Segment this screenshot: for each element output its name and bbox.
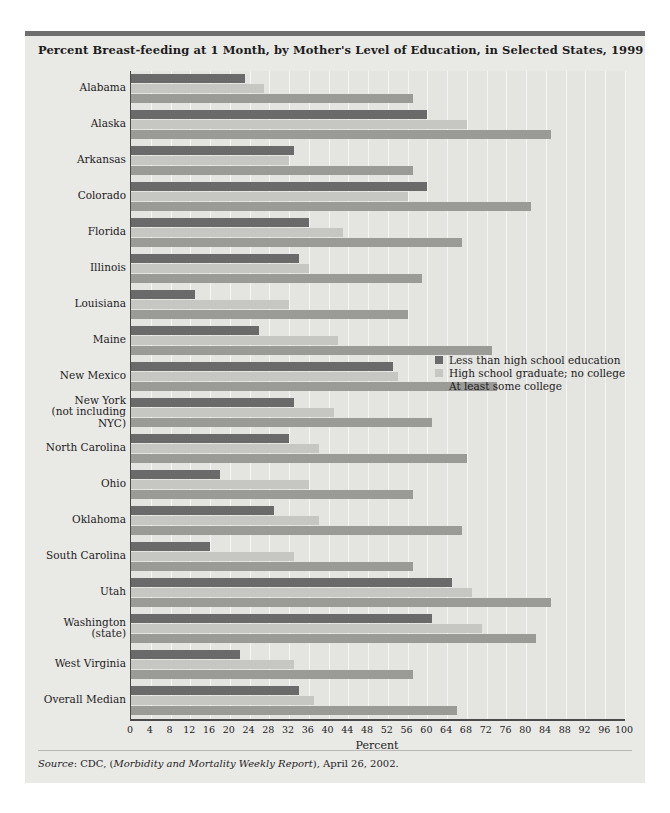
bar — [131, 290, 195, 299]
bar — [131, 218, 309, 227]
source-label: Source — [38, 758, 74, 769]
x-tick-label: 80 — [519, 724, 531, 735]
category-label: Alaska — [24, 118, 126, 130]
bar-group: Washington(state) — [131, 611, 625, 647]
source-note: Source: CDC, (Morbidity and Mortality We… — [38, 758, 399, 769]
bar — [131, 166, 413, 175]
bar — [131, 274, 422, 283]
category-label: Florida — [24, 226, 126, 238]
bar — [131, 706, 457, 715]
x-axis-line — [130, 719, 625, 721]
bar — [131, 238, 462, 247]
x-tick-label: 28 — [262, 724, 274, 735]
legend-swatch-icon — [435, 369, 443, 377]
bar-group: Overall Median — [131, 683, 625, 719]
x-tick-label: 84 — [539, 724, 551, 735]
page-title: Percent Breast-feeding at 1 Month, by Mo… — [38, 43, 643, 57]
bar — [131, 120, 467, 129]
bar — [131, 202, 531, 211]
bar-group: Alaska — [131, 107, 625, 143]
plot-area: AlabamaAlaskaArkansasColoradoFloridaIlli… — [130, 71, 625, 719]
x-tick-label: 40 — [322, 724, 334, 735]
bar — [131, 408, 334, 417]
bar — [131, 542, 210, 551]
category-label: North Carolina — [24, 442, 126, 454]
bar — [131, 686, 299, 695]
bar — [131, 156, 289, 165]
category-label: Oklahoma — [24, 514, 126, 526]
bar — [131, 588, 472, 597]
bar — [131, 182, 427, 191]
category-label: West Virginia — [24, 658, 126, 670]
bar — [131, 130, 551, 139]
bar — [131, 470, 220, 479]
x-tick-label: 32 — [282, 724, 294, 735]
bar-group: Illinois — [131, 251, 625, 287]
bar — [131, 670, 413, 679]
bar — [131, 146, 294, 155]
category-label: Washington(state) — [24, 617, 126, 640]
bar — [131, 254, 299, 263]
bar — [131, 326, 259, 335]
bar — [131, 526, 462, 535]
category-label: Maine — [24, 334, 126, 346]
bar — [131, 434, 289, 443]
category-label: Utah — [24, 586, 126, 598]
x-tick-label: 96 — [598, 724, 610, 735]
legend-item: High school graduate; no college — [435, 366, 625, 379]
legend-item: At least some college — [435, 379, 625, 392]
bar — [131, 264, 309, 273]
bottom-rule — [38, 750, 632, 751]
bar — [131, 480, 309, 489]
bar — [131, 624, 482, 633]
bar-group: Arkansas — [131, 143, 625, 179]
bar-group: South Carolina — [131, 539, 625, 575]
category-label: New Mexico — [24, 370, 126, 382]
bar — [131, 418, 432, 427]
bar-group: Colorado — [131, 179, 625, 215]
x-tick-label: 56 — [401, 724, 413, 735]
x-tick-label: 4 — [147, 724, 153, 735]
category-label: Illinois — [24, 262, 126, 274]
bar — [131, 228, 343, 237]
bar — [131, 454, 467, 463]
bar — [131, 634, 536, 643]
top-rule — [25, 31, 645, 36]
legend-label: At least some college — [449, 380, 562, 392]
bar — [131, 444, 319, 453]
source-sep: : CDC, ( — [74, 758, 114, 769]
bar — [131, 516, 319, 525]
bar-group: Ohio — [131, 467, 625, 503]
gridline — [625, 71, 626, 719]
bar-group: West Virginia — [131, 647, 625, 683]
x-tick-label: 36 — [302, 724, 314, 735]
x-tick-label: 100 — [615, 724, 633, 735]
bar — [131, 506, 274, 515]
x-tick-label: 0 — [127, 724, 133, 735]
bar-group: Oklahoma — [131, 503, 625, 539]
x-tick-label: 64 — [440, 724, 452, 735]
bar-group: Louisiana — [131, 287, 625, 323]
legend-label: High school graduate; no college — [449, 367, 625, 379]
bar — [131, 398, 294, 407]
x-tick-label: 12 — [183, 724, 195, 735]
x-tick-label: 76 — [499, 724, 511, 735]
category-label: Ohio — [24, 478, 126, 490]
x-tick-label: 92 — [578, 724, 590, 735]
bar-group: Utah — [131, 575, 625, 611]
plot-wrapper: AlabamaAlaskaArkansasColoradoFloridaIlli… — [25, 67, 645, 747]
x-tick-label: 88 — [559, 724, 571, 735]
bar — [131, 336, 338, 345]
x-tick-label: 72 — [480, 724, 492, 735]
bar — [131, 490, 413, 499]
category-label: Overall Median — [24, 694, 126, 706]
bar — [131, 614, 432, 623]
bar — [131, 310, 408, 319]
bar — [131, 94, 413, 103]
bar — [131, 552, 294, 561]
chart-legend: Less than high school educationHigh scho… — [435, 353, 625, 392]
x-tick-label: 48 — [361, 724, 373, 735]
bar — [131, 660, 294, 669]
bar-group: Florida — [131, 215, 625, 251]
bar — [131, 372, 398, 381]
